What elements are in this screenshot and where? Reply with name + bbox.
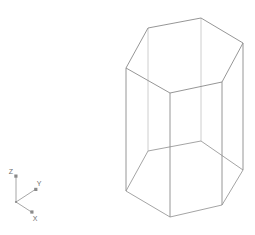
axis-label-z: Z: [9, 168, 14, 175]
axis-label-y: Y: [37, 180, 42, 187]
axis-orientation-gizmo[interactable]: Z Y X: [9, 168, 42, 222]
visible-edge-group: [126, 43, 243, 217]
axis-label-x: X: [33, 215, 38, 222]
scene-canvas[interactable]: Z Y X: [0, 0, 255, 235]
axis-line-y: [16, 189, 36, 202]
top-hexagon-face: [126, 18, 243, 93]
axis-arrow-z: [14, 175, 17, 178]
bottom-hexagon-face: [126, 141, 243, 217]
viewport[interactable]: Z Y X: [0, 0, 255, 235]
axis-origin-marker: [15, 201, 17, 203]
axis-arrow-y: [34, 188, 37, 191]
axis-arrow-x: [30, 210, 33, 213]
hexagonal-prism[interactable]: [126, 18, 243, 217]
